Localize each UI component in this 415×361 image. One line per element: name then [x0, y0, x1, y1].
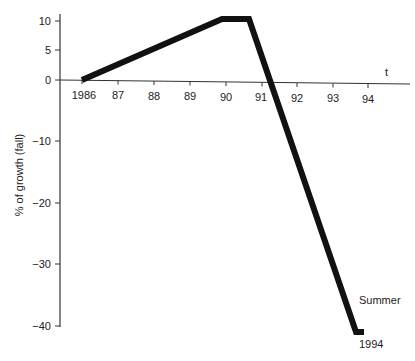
svg-text:5: 5 — [45, 44, 51, 56]
svg-text:87: 87 — [112, 89, 124, 101]
svg-text:−10: −10 — [32, 135, 51, 147]
x-axis-title: t — [385, 66, 388, 78]
svg-text:10: 10 — [39, 15, 51, 27]
annotation-summer: Summer — [359, 294, 401, 306]
svg-text:0: 0 — [45, 74, 51, 86]
svg-text:1986: 1986 — [72, 89, 96, 101]
svg-text:92: 92 — [291, 92, 303, 104]
growth-line-chart: 10 5 0 −10 −20 −30 −40 1986 87 88 89 90 … — [0, 0, 415, 361]
y-axis-title: % of growth (fall) — [13, 134, 25, 217]
svg-text:94: 94 — [362, 93, 374, 105]
annotation-1994: 1994 — [359, 338, 383, 350]
x-tick-labels: 1986 87 88 89 90 91 92 93 94 — [72, 89, 374, 105]
svg-text:−20: −20 — [32, 197, 51, 209]
svg-text:91: 91 — [255, 91, 267, 103]
growth-series-line — [82, 19, 364, 332]
x-axis — [60, 80, 410, 84]
svg-text:88: 88 — [148, 90, 160, 102]
y-tick-labels: 10 5 0 −10 −20 −30 −40 — [32, 15, 51, 332]
svg-text:90: 90 — [220, 91, 232, 103]
svg-text:−30: −30 — [32, 258, 51, 270]
svg-text:93: 93 — [327, 92, 339, 104]
svg-text:−40: −40 — [32, 320, 51, 332]
svg-text:89: 89 — [184, 90, 196, 102]
y-ticks — [55, 21, 60, 326]
